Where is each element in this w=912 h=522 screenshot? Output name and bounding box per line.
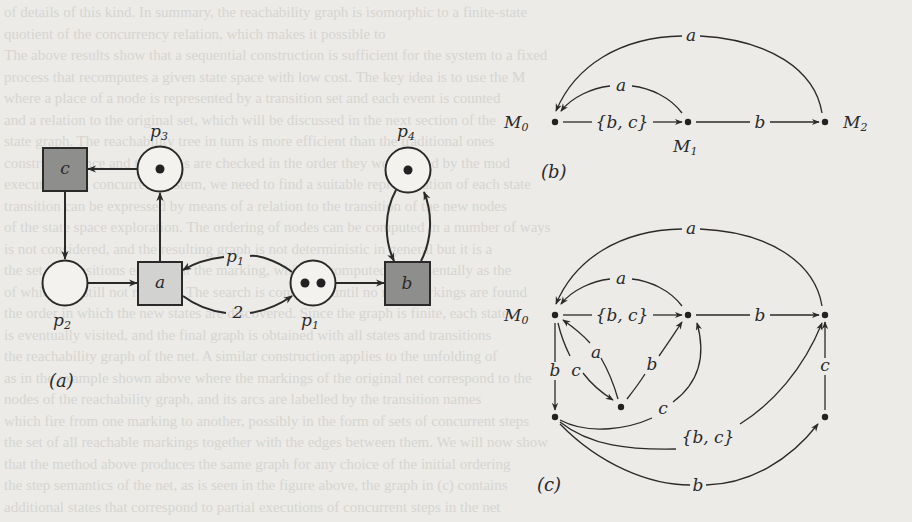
- panel-b-graph: [552, 36, 828, 125]
- edge-label-c-curve: c: [658, 398, 668, 418]
- node-middle: [618, 404, 624, 410]
- place-p1-label: p1: [301, 310, 319, 332]
- arc-p1-to-a: [250, 256, 292, 272]
- node-M0: [552, 312, 558, 318]
- arc-a-to-p1: [183, 296, 226, 313]
- place-p4-label: p4: [397, 121, 415, 143]
- edge-label-b: b: [755, 112, 766, 132]
- edge-label-c-up: c: [820, 355, 830, 375]
- node-M1: [685, 119, 691, 125]
- edge-label-a-small: a: [616, 268, 626, 288]
- node-M0-label: M0: [503, 112, 528, 134]
- edge-label-a-small: a: [616, 75, 626, 95]
- arc-b-to-p4: [421, 192, 430, 261]
- place-p2: [43, 261, 88, 306]
- edge-label-b-down: b: [550, 360, 561, 380]
- panel-a-caption: (a): [49, 370, 74, 391]
- panel-c-caption: (c): [537, 474, 561, 495]
- transition-b-label: b: [402, 273, 413, 293]
- edge-label-a-diag: a: [591, 342, 601, 362]
- panel-b-caption: (b): [541, 161, 567, 182]
- token-icon: [404, 166, 413, 175]
- arc-label-weight: 2: [232, 302, 244, 322]
- node-bottom-left: [552, 414, 558, 420]
- edge-label-a-big: a: [686, 218, 696, 238]
- node-M2-label: M2: [842, 112, 867, 134]
- edge-label-b: b: [755, 305, 766, 325]
- panel-a-petri-net: [43, 147, 431, 314]
- token-icon: [317, 279, 326, 288]
- edge-label-c-diag: c: [571, 360, 581, 380]
- node-M2: [822, 119, 828, 125]
- node-M0: [552, 119, 558, 125]
- node-M2: [822, 312, 828, 318]
- node-M1-label: M1: [672, 136, 697, 158]
- transition-a-label: a: [155, 272, 165, 292]
- token-icon: [156, 165, 165, 174]
- edge-label-bc-curve: {b, c}: [682, 427, 735, 447]
- edge-label-b-bottom: b: [693, 475, 704, 495]
- edge-label-bc: {b, c}: [596, 305, 649, 325]
- edge-label-b-diag: b: [647, 354, 658, 374]
- panel-a-labels: c a b p3 p4 p2 p1 p1 2 (a): [49, 121, 415, 391]
- panel-b-labels: M0 M1 M2 {b, c} b a a (b): [503, 25, 867, 182]
- node-M1: [685, 312, 691, 318]
- place-p1: [291, 261, 336, 306]
- figure-page: of details of this kind. In summary, the…: [0, 0, 912, 522]
- token-icon: [301, 279, 310, 288]
- panel-c-labels: M0 {b, c} b a a b c a b c {b, c} b c (c): [503, 218, 830, 495]
- node-M0-label: M0: [503, 305, 528, 327]
- arc-p4-to-b: [387, 190, 396, 261]
- node-bottom-right: [822, 414, 828, 420]
- transition-c-label: c: [60, 158, 70, 178]
- edge-label-a-big: a: [686, 25, 696, 45]
- place-p3-label: p3: [150, 121, 168, 143]
- edge-label-bc: {b, c}: [596, 112, 649, 132]
- diagram-canvas: c a b p3 p4 p2 p1 p1 2 (a): [0, 0, 912, 522]
- arc-label-p1: p1: [226, 246, 244, 268]
- place-p2-label: p2: [53, 310, 71, 332]
